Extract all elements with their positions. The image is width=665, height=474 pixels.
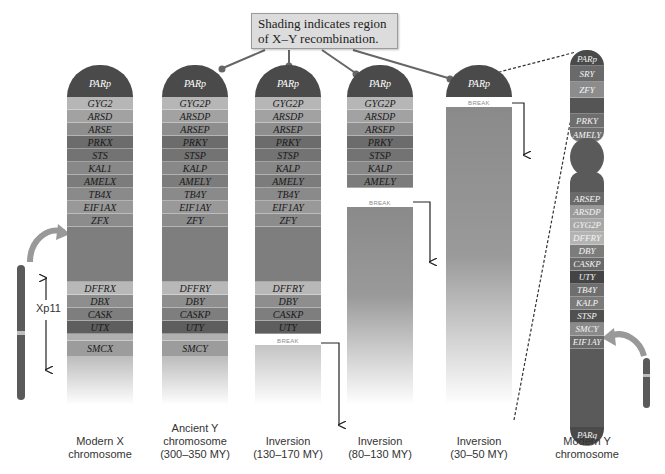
centromere-cap-parp: PARp <box>162 65 228 97</box>
parp-cap: PARp <box>570 50 604 66</box>
caption-modern-y: Modern Y chromosome <box>542 435 632 461</box>
modern-y-chromosome: PARp SRY ZFY PRKY AMELY ARSEP ARSDP GYG2… <box>570 50 604 446</box>
band-amely: AMELY <box>162 175 228 188</box>
break-label: BREAK <box>446 99 512 107</box>
band-prkx: PRKX <box>67 136 133 149</box>
fade-tail <box>255 345 321 405</box>
band-arsd: ARSD <box>67 110 133 123</box>
band-stsp: STSP <box>162 149 228 162</box>
fade-tail <box>446 107 512 405</box>
band-eif1ay: EIF1AY <box>162 201 228 214</box>
band-eif1ay: EIF1AY <box>570 336 604 349</box>
band-gap <box>255 227 321 282</box>
band-blank <box>570 98 604 114</box>
fade-tail <box>67 357 133 405</box>
callout-line-2: of X–Y recombination. <box>258 31 391 46</box>
band-caskp: CASKP <box>162 308 228 321</box>
band-arsep: ARSEP <box>570 192 604 206</box>
break-label: BREAK <box>347 199 413 207</box>
band-prky: PRKY <box>570 114 604 128</box>
caption-inversion-80-130: Inversion (80–130 MY) <box>335 435 425 461</box>
band-arse: ARSE <box>67 123 133 136</box>
band-uty: UTY <box>162 321 228 334</box>
band-smcy: SMCY <box>570 323 604 336</box>
band-kal1: KAL1 <box>67 162 133 175</box>
band-dby: DBY <box>255 295 321 308</box>
band-caskp: CASKP <box>255 308 321 321</box>
inversion-30-50-chromosome: PARp BREAK <box>446 65 512 405</box>
fade-tail <box>162 357 228 405</box>
callout-line-1: Shading indicates region <box>258 16 391 31</box>
band-arsdp: ARSDP <box>162 110 228 123</box>
band-eif1ax: EIF1AX <box>67 201 133 214</box>
modern-x-chromosome: PARp GYG2 ARSD ARSE PRKX STS KAL1 AMELX … <box>67 65 133 405</box>
centromere-cap-parp: PARp <box>446 65 512 97</box>
band-tb4y: TB4Y <box>570 284 604 297</box>
band-stsp: STSP <box>255 149 321 162</box>
q-arm-body <box>570 349 604 427</box>
inversion-80-130-chromosome: PARp GYG2P ARSDP ARSEP PRKY STSP KALP AM… <box>347 65 413 405</box>
callout-box: Shading indicates region of X–Y recombin… <box>251 13 398 49</box>
centromere-cap-parp: PARp <box>67 65 133 97</box>
band-prky: PRKY <box>347 136 413 149</box>
caption-modern-x: Modern X chromosome <box>55 435 145 461</box>
centromere-cap-parp: PARp <box>255 65 321 97</box>
band-sry: SRY <box>570 66 604 82</box>
ancient-y-chromosome: PARp GYG2P ARSDP ARSEP PRKY STSP KALP AM… <box>162 65 228 405</box>
band-gyg2p: GYG2P <box>347 97 413 110</box>
band-amely: AMELY <box>255 175 321 188</box>
band-gyg2: GYG2 <box>67 97 133 110</box>
caption-inversion-130-170: Inversion (130–170 MY) <box>243 435 333 461</box>
band-dffry: DFFRY <box>162 282 228 295</box>
band-gyg2p: GYG2P <box>255 97 321 110</box>
caption-ancient-y: Ancient Y chromosome (300–350 MY) <box>150 422 240 461</box>
small-y-chromosome <box>643 358 650 408</box>
band-zfy: ZFY <box>162 214 228 227</box>
band-arsdp: ARSDP <box>347 110 413 123</box>
band-uty: UTY <box>255 321 321 334</box>
band-stsp: STSP <box>347 149 413 162</box>
band-dffry: DFFRY <box>255 282 321 295</box>
band-caskp: CASKP <box>570 258 604 271</box>
band-arsdp: ARSDP <box>570 206 604 219</box>
band-zfy: ZFY <box>255 214 321 227</box>
band-eif1ay: EIF1AY <box>255 201 321 214</box>
band-smcy: SMCY <box>162 341 228 357</box>
band-utx: UTX <box>67 321 133 334</box>
band-gyg2p: GYG2P <box>162 97 228 110</box>
band-dby: DBY <box>570 245 604 258</box>
inversion-130-170-chromosome: PARp GYG2P ARSDP ARSEP PRKY STSP KALP AM… <box>255 65 321 405</box>
band-gyg2p: GYG2P <box>570 219 604 232</box>
band-arsep: ARSEP <box>347 123 413 136</box>
band-kalp: KALP <box>162 162 228 175</box>
band-kalp: KALP <box>255 162 321 175</box>
band-dby: DBY <box>162 295 228 308</box>
band-tb4y: TB4Y <box>162 188 228 201</box>
band-dffry: DFFRY <box>570 232 604 245</box>
band-prky: PRKY <box>255 136 321 149</box>
band-smcx: SMCX <box>67 341 133 357</box>
band-gap <box>162 227 228 282</box>
band-dffrx: DFFRX <box>67 282 133 295</box>
band-kalp: KALP <box>570 297 604 310</box>
fade-tail <box>347 207 413 405</box>
band-tb4x: TB4X <box>67 188 133 201</box>
band-arsdp: ARSDP <box>255 110 321 123</box>
band-gap <box>67 227 133 282</box>
xp11-label: Xp11 <box>36 302 61 314</box>
centromere <box>570 138 604 176</box>
caption-inversion-30-50: Inversion (30–50 MY) <box>434 435 524 461</box>
band-arsep: ARSEP <box>255 123 321 136</box>
band-prky: PRKY <box>162 136 228 149</box>
band-arsep: ARSEP <box>162 123 228 136</box>
band-spacer <box>67 334 133 341</box>
break-label: BREAK <box>255 337 321 345</box>
band-spacer <box>162 334 228 341</box>
band-amelx: AMELX <box>67 175 133 188</box>
band-kalp: KALP <box>347 162 413 175</box>
band-stsp: STSP <box>570 310 604 323</box>
band-cask: CASK <box>67 308 133 321</box>
band-amely: AMELY <box>347 175 413 188</box>
band-zfx: ZFX <box>67 214 133 227</box>
q-arm-top <box>570 172 604 192</box>
